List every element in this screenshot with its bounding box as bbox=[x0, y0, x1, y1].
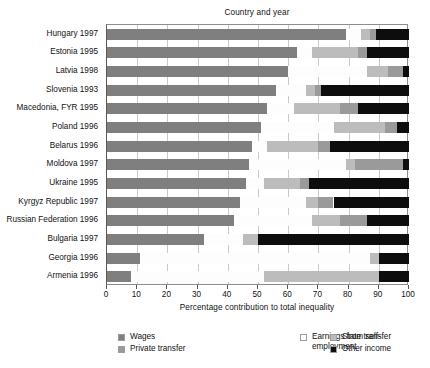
bar-segment bbox=[107, 85, 276, 96]
bar-segment bbox=[264, 271, 379, 282]
bar-segment bbox=[107, 234, 204, 245]
y-axis-tick-label: Slovenia 1993 bbox=[46, 84, 98, 95]
bar-row bbox=[107, 215, 407, 226]
legend-label: Other income bbox=[342, 344, 391, 354]
x-axis-tick-label: 100 bbox=[401, 290, 415, 299]
bar-row bbox=[107, 47, 407, 58]
legend-item[interactable]: Other income bbox=[330, 344, 391, 354]
bar-row bbox=[107, 234, 407, 245]
bar-segment bbox=[294, 103, 339, 114]
bar-row bbox=[107, 271, 407, 282]
bar-row bbox=[107, 29, 407, 40]
legend-swatch-icon bbox=[118, 334, 125, 341]
bar-segment bbox=[334, 122, 385, 133]
bar-segment bbox=[370, 253, 379, 264]
y-axis-tick-label: Macedonia, FYR 1995 bbox=[17, 102, 98, 113]
bar-segment bbox=[330, 141, 409, 152]
bar-segment bbox=[312, 47, 357, 58]
bar-segment bbox=[140, 253, 370, 264]
bar-segment bbox=[107, 29, 346, 40]
bar-segment bbox=[107, 103, 267, 114]
x-axis-tick bbox=[166, 285, 167, 289]
legend-item[interactable]: Wages bbox=[118, 332, 155, 342]
bar-segment bbox=[264, 178, 300, 189]
y-axis-tick-label: Bulgaria 1997 bbox=[47, 233, 98, 244]
bar-segment bbox=[361, 29, 370, 40]
bar-segment bbox=[376, 29, 409, 40]
bar-segment bbox=[261, 122, 333, 133]
bar-segment bbox=[107, 66, 288, 77]
bar-segment bbox=[267, 103, 294, 114]
bar-segment bbox=[367, 66, 388, 77]
y-axis-tick-label: Estonia 1995 bbox=[50, 46, 98, 57]
bar-segment bbox=[367, 215, 409, 226]
legend-swatch-icon bbox=[118, 346, 125, 353]
y-axis-tick-label: Kyrgyz Republic 1997 bbox=[18, 196, 98, 207]
legend-label: Wages bbox=[130, 332, 155, 342]
chart-legend: WagesPrivate transferEarnings from self-… bbox=[0, 330, 430, 366]
y-axis-tick-label: Russian Federation 1996 bbox=[7, 214, 99, 225]
bar-segment bbox=[367, 47, 409, 58]
legend-item[interactable]: State transfer bbox=[330, 332, 391, 342]
x-axis-tick bbox=[106, 285, 107, 289]
bar-segment bbox=[403, 66, 409, 77]
x-axis-tick-labels: 0102030405060708090100 bbox=[106, 290, 408, 302]
bar-segment bbox=[355, 159, 403, 170]
y-axis-tick-label: Georgia 1996 bbox=[48, 252, 98, 263]
bar-row bbox=[107, 122, 407, 133]
x-axis-tick-label: 0 bbox=[104, 290, 109, 299]
x-axis-tick bbox=[317, 285, 318, 289]
y-axis-tick-label: Hungary 1997 bbox=[47, 28, 98, 39]
x-axis-tick-label: 90 bbox=[373, 290, 382, 299]
bar-row bbox=[107, 178, 407, 189]
bar-segment bbox=[397, 122, 409, 133]
bar-segment bbox=[258, 234, 409, 245]
bar-segment bbox=[306, 197, 318, 208]
bar-segment bbox=[240, 197, 306, 208]
y-axis-tick-labels: Hungary 1997Estonia 1995Latvia 1998Slove… bbox=[0, 24, 102, 285]
bar-segment bbox=[107, 215, 234, 226]
legend-swatch-icon bbox=[330, 334, 337, 341]
x-axis-tick bbox=[197, 285, 198, 289]
bar-segment bbox=[234, 215, 313, 226]
bar-row bbox=[107, 253, 407, 264]
bar-segment bbox=[318, 141, 330, 152]
bar-segment bbox=[288, 66, 367, 77]
bar-row bbox=[107, 66, 407, 77]
bar-segment bbox=[107, 197, 240, 208]
y-axis-tick-label: Poland 1996 bbox=[52, 121, 98, 132]
bar-segment bbox=[306, 85, 315, 96]
bar-segment bbox=[340, 103, 358, 114]
bar-series-container bbox=[107, 25, 407, 284]
legend-item[interactable]: Private transfer bbox=[118, 344, 186, 354]
y-axis-tick-label: Belarus 1996 bbox=[50, 140, 98, 151]
bar-segment bbox=[131, 271, 264, 282]
bar-segment bbox=[300, 178, 309, 189]
chart-figure: Country and year Hungary 1997Estonia 199… bbox=[0, 0, 430, 368]
x-axis-tick-label: 40 bbox=[222, 290, 231, 299]
x-axis-tick bbox=[257, 285, 258, 289]
bar-segment bbox=[267, 141, 318, 152]
bar-segment bbox=[388, 66, 403, 77]
x-axis-tick bbox=[348, 285, 349, 289]
bar-segment bbox=[358, 47, 367, 58]
x-axis-tick-label: 20 bbox=[162, 290, 171, 299]
bar-segment bbox=[321, 85, 409, 96]
x-axis-tick bbox=[378, 285, 379, 289]
bar-segment bbox=[107, 271, 131, 282]
legend-label: Private transfer bbox=[130, 344, 186, 354]
x-axis-tick-label: 10 bbox=[132, 290, 141, 299]
bar-segment bbox=[107, 178, 246, 189]
bar-row bbox=[107, 141, 407, 152]
bar-segment bbox=[334, 197, 410, 208]
x-axis-tick-label: 70 bbox=[313, 290, 322, 299]
bar-segment bbox=[107, 253, 140, 264]
bar-segment bbox=[246, 178, 264, 189]
bar-segment bbox=[243, 234, 258, 245]
y-axis-tick-label: Moldova 1997 bbox=[47, 158, 98, 169]
bar-row bbox=[107, 197, 407, 208]
y-axis-tick-label: Latvia 1998 bbox=[56, 65, 98, 76]
bar-segment bbox=[340, 215, 367, 226]
x-axis-tick bbox=[408, 285, 409, 289]
legend-label: State transfer bbox=[342, 332, 391, 342]
